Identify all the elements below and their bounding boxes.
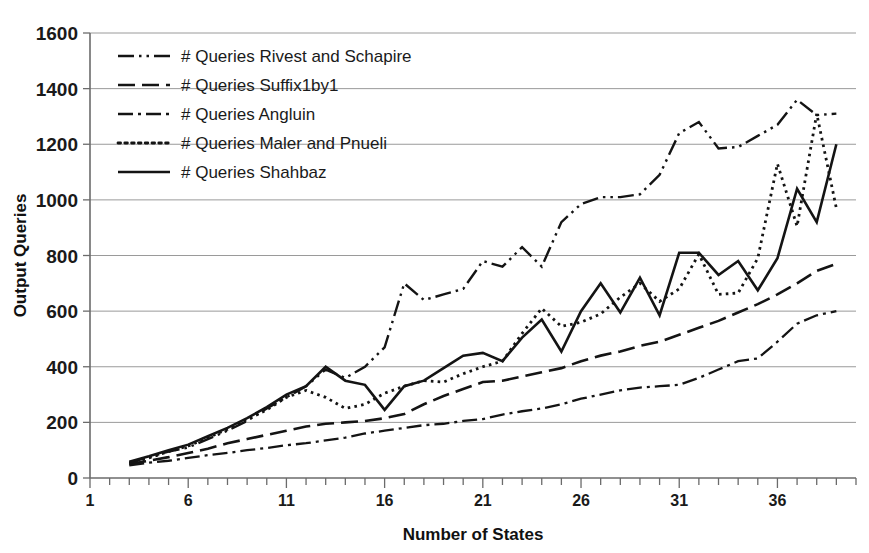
series-line-4	[129, 144, 836, 462]
series-line-0	[129, 100, 836, 463]
line-chart-svg: 02004006008001000120014001600 1611162126…	[0, 0, 869, 553]
legend-label-1: # Queries Suffix1by1	[181, 76, 339, 95]
y-tick-label: 1200	[36, 134, 78, 155]
legend-label-0: # Queries Rivest and Schapire	[181, 47, 412, 66]
y-tick-label: 400	[46, 357, 78, 378]
y-axis-tick-labels: 02004006008001000120014001600	[36, 23, 78, 489]
chart-container: 02004006008001000120014001600 1611162126…	[0, 0, 869, 553]
chart-legend: # Queries Rivest and Schapire# Queries S…	[118, 47, 412, 182]
scan-artifact-left	[0, 452, 78, 462]
data-series-group	[129, 100, 836, 466]
y-tick-label: 1600	[36, 23, 78, 44]
y-tick-label: 1000	[36, 190, 78, 211]
legend-label-2: # Queries Angluin	[181, 105, 315, 124]
y-tick-label: 0	[67, 468, 78, 489]
x-axis-title: Number of States	[403, 525, 544, 544]
y-tick-label: 200	[46, 412, 78, 433]
scan-artifact-bottom	[0, 498, 869, 507]
series-line-1	[129, 264, 836, 464]
y-tick-label: 800	[46, 246, 78, 267]
legend-label-4: # Queries Shahbaz	[181, 163, 327, 182]
legend-label-3: # Queries Maler and Pnueli	[181, 134, 387, 153]
y-axis-title: Output Queries	[11, 194, 30, 318]
y-tick-label: 600	[46, 301, 78, 322]
y-tick-label: 1400	[36, 79, 78, 100]
